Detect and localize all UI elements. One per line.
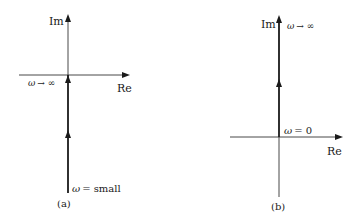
re-label-b: Re <box>327 145 342 158</box>
omega-small-label-a: ω= small <box>72 183 121 194</box>
panel-b: Im ω→ ∞ ω= 0 Re (b) <box>230 15 343 212</box>
panel-a: Im Re ω→ ∞ ω= small (a) <box>19 14 132 209</box>
omega-infinity-label-a: ω→ ∞ <box>28 78 55 88</box>
real-axis-arrow-icon <box>122 72 130 78</box>
omega-zero-label-b: ω= 0 <box>284 125 312 136</box>
locus-direction-arrow-icon <box>276 79 282 87</box>
imaginary-axis-arrow-icon <box>65 14 71 22</box>
caption-b: (b) <box>271 201 285 212</box>
im-label-b: Im <box>261 18 276 31</box>
re-label-a: Re <box>117 82 132 95</box>
omega-infinity-label-b: ω→ ∞ <box>287 21 314 31</box>
im-label-a: Im <box>49 15 64 28</box>
locus-end-arrow-icon <box>65 75 71 83</box>
caption-a: (a) <box>57 198 71 209</box>
real-axis-arrow-icon <box>335 134 343 140</box>
polar-plots-figure: Im Re ω→ ∞ ω= small (a) Im ω→ ∞ ω= 0 Re … <box>0 0 361 224</box>
imaginary-axis-arrow-icon <box>276 15 282 23</box>
locus-direction-arrow-icon <box>65 130 71 138</box>
